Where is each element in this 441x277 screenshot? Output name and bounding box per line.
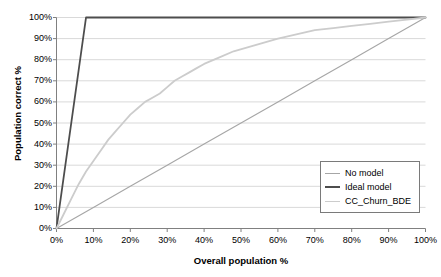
x-tick-label: 30%	[147, 236, 187, 245]
legend-item-no-model[interactable]: No model	[325, 166, 414, 180]
x-tick-label: 10%	[73, 236, 113, 245]
legend-label-cc-churn-bde: CC_Churn_BDE	[345, 196, 411, 206]
x-tick-label: 100%	[406, 236, 441, 245]
x-tick-label: 40%	[184, 236, 224, 245]
x-tick-label: 0%	[37, 236, 77, 245]
x-tick-label: 20%	[110, 236, 150, 245]
x-tick-label: 90%	[369, 236, 409, 245]
legend-swatch-ideal-model	[325, 186, 340, 188]
x-tick-label: 60%	[258, 236, 298, 245]
x-tick-label: 70%	[295, 236, 335, 245]
x-axis-tick-labels: 0%10%20%30%40%50%60%70%80%90%100%	[0, 0, 441, 277]
x-axis-title: Overall population %	[56, 255, 426, 266]
x-tick-label: 50%	[221, 236, 261, 245]
legend-label-no-model: No model	[345, 168, 384, 178]
lift-chart: Population correct % 0%10%20%30%40%50%60…	[0, 0, 441, 277]
legend-swatch-no-model	[325, 173, 340, 174]
x-tick-label: 80%	[332, 236, 372, 245]
legend-label-ideal-model: Ideal model	[345, 182, 392, 192]
legend-item-cc-churn-bde[interactable]: CC_Churn_BDE	[325, 194, 414, 208]
legend: No model Ideal model CC_Churn_BDE	[320, 161, 420, 213]
legend-item-ideal-model[interactable]: Ideal model	[325, 180, 414, 194]
legend-swatch-cc-churn-bde	[325, 201, 340, 202]
